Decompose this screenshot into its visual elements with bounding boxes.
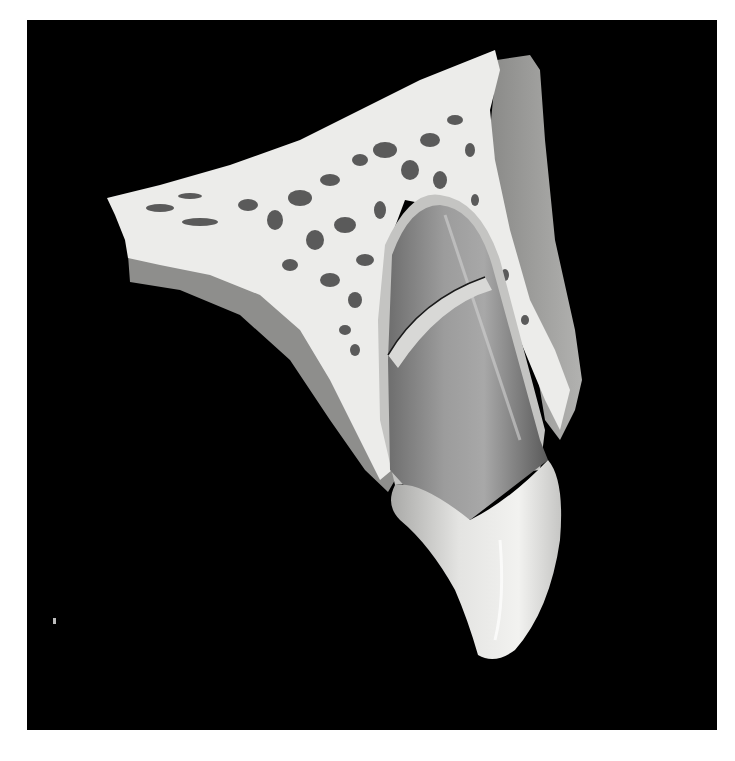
- tooth-illustration: [0, 0, 735, 761]
- scan-artifact: [53, 618, 56, 624]
